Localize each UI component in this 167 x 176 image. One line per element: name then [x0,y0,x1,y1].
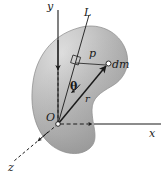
mass-element-label: dm [112,59,129,70]
figure-canvas [0,0,167,176]
physics-figure: y L p dm θ r O x z [0,0,167,176]
perpendicular-distance-label: p [89,48,96,59]
origin-point-marker-icon [56,122,61,127]
z-axis-label: z [8,162,14,173]
origin-label: O [46,112,55,123]
radius-r-label: r [85,94,90,104]
y-axis-label: y [47,1,53,12]
angle-theta-label: θ [70,81,77,92]
axis-L-label: L [84,7,91,18]
mass-point-marker-icon [106,61,111,66]
rigid-body-shape [32,26,128,154]
x-axis-label: x [149,128,155,139]
